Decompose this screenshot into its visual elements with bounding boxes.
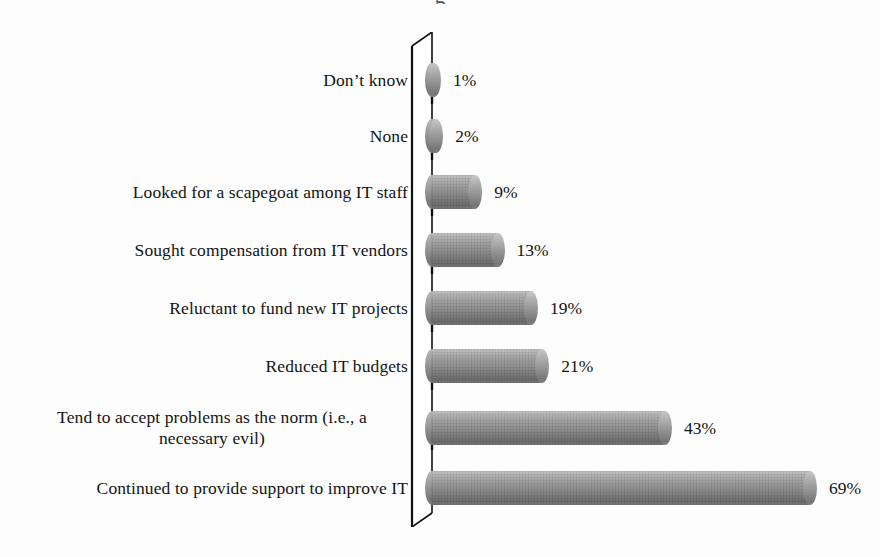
cylinder	[432, 175, 482, 209]
cylinder-body	[432, 471, 810, 505]
bar-chart: g Don’t know1%None2%Looked for a scapego…	[0, 0, 880, 557]
cylinder-right-cap	[524, 291, 538, 325]
cylinder-right-cap	[468, 175, 482, 209]
value-label: 9%	[494, 182, 517, 203]
bar-row: None2%	[0, 108, 880, 164]
category-label-line: necessary evil)	[16, 428, 408, 449]
cylinder	[432, 471, 817, 505]
cylinder-right-cap	[491, 233, 505, 267]
value-label: 2%	[455, 126, 478, 147]
bar-row: Reduced IT budgets21%	[0, 338, 880, 394]
category-label-line: Don’t know	[16, 70, 408, 91]
cylinder-body	[432, 411, 665, 445]
cylinder-right-cap	[429, 119, 443, 153]
category-label: Sought compensation from IT vendors	[16, 240, 408, 261]
category-label-line: Sought compensation from IT vendors	[16, 240, 408, 261]
cylinder	[432, 233, 505, 267]
bar-row: Sought compensation from IT vendors13%	[0, 222, 880, 278]
cylinder-bar	[432, 63, 441, 97]
cylinder	[432, 63, 441, 97]
cylinder-body	[432, 349, 542, 383]
bar-row: Tend to accept problems as the norm (i.e…	[0, 400, 880, 456]
cylinder-bar	[432, 119, 443, 153]
value-label: 43%	[684, 418, 716, 439]
category-label: Reduced IT budgets	[16, 356, 408, 377]
cylinder-bar	[432, 175, 482, 209]
cylinder-right-cap	[535, 349, 549, 383]
category-label: Looked for a scapegoat among IT staff	[16, 182, 408, 203]
cylinder	[432, 119, 443, 153]
cylinder-bar	[432, 291, 538, 325]
cylinder	[432, 349, 549, 383]
cylinder	[432, 411, 672, 445]
cylinder	[432, 291, 538, 325]
value-label: 13%	[517, 240, 549, 261]
category-label: None	[16, 126, 408, 147]
cylinder-bar	[432, 411, 672, 445]
category-label-line: Reluctant to fund new IT projects	[16, 298, 408, 319]
cylinder-right-cap	[658, 411, 672, 445]
value-label: 19%	[550, 298, 582, 319]
cylinder-body	[432, 233, 498, 267]
cylinder-bar	[432, 349, 549, 383]
category-label-line: Looked for a scapegoat among IT staff	[16, 182, 408, 203]
value-label: 69%	[829, 478, 861, 499]
plot-area: Don’t know1%None2%Looked for a scapegoat…	[0, 32, 880, 527]
bar-row: Don’t know1%	[0, 52, 880, 108]
category-label-line: Continued to provide support to improve …	[16, 478, 408, 499]
category-label: Continued to provide support to improve …	[16, 478, 408, 499]
cylinder-right-cap	[803, 471, 817, 505]
category-label-line: Reduced IT budgets	[16, 356, 408, 377]
cylinder-right-cap	[427, 63, 441, 97]
category-label-line: Tend to accept problems as the norm (i.e…	[16, 407, 408, 428]
clipped-chart-title: g	[0, 0, 880, 4]
bar-row: Reluctant to fund new IT projects19%	[0, 280, 880, 336]
category-label: Tend to accept problems as the norm (i.e…	[0, 407, 408, 448]
category-label: Reluctant to fund new IT projects	[16, 298, 408, 319]
cylinder-bar	[432, 471, 817, 505]
bar-row: Continued to provide support to improve …	[0, 460, 880, 516]
category-label-line: None	[16, 126, 408, 147]
category-label: Don’t know	[16, 70, 408, 91]
value-label: 1%	[453, 70, 476, 91]
bar-row: Looked for a scapegoat among IT staff9%	[0, 164, 880, 220]
cylinder-bar	[432, 233, 505, 267]
cylinder-body	[432, 291, 531, 325]
value-label: 21%	[561, 356, 593, 377]
